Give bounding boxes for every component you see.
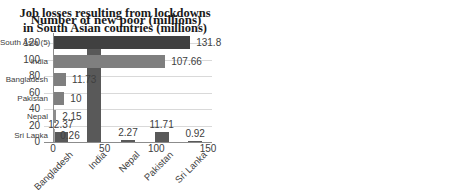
x-tick-label: 0 [38,143,68,154]
bar [54,92,64,105]
screenshot-root: Job losses resulting from lockdowns in S… [0,0,454,190]
x-tick-label: 100 [141,143,171,154]
category-label: Bangladesh [0,75,48,84]
x-tick-label: 50 [90,143,120,154]
bar-value-label: 131.8 [196,37,221,48]
bar [54,129,55,142]
category-label: Nepal [0,112,48,121]
category-label: South Asia (5) [0,38,48,47]
new-poor-chart: Number of new poor (millions) South Asia… [0,0,232,190]
category-label: Pakistan [0,94,48,103]
bar [54,55,165,68]
x-tick-label: 150 [193,143,223,154]
category-label: India [0,57,48,66]
bar-value-label: 2.15 [62,111,81,122]
right-chart-title: Number of new poor (millions) [0,12,232,28]
bar [54,110,56,123]
bar-value-label: 0.26 [60,130,79,141]
bar [54,36,190,49]
y-axis-line [53,33,54,142]
bar-value-label: 10 [70,93,81,104]
bar [54,73,66,86]
bar-value-label: 107.66 [171,56,202,67]
category-label: Sri Lanka [0,131,48,140]
bar-value-label: 11.73 [72,74,96,85]
